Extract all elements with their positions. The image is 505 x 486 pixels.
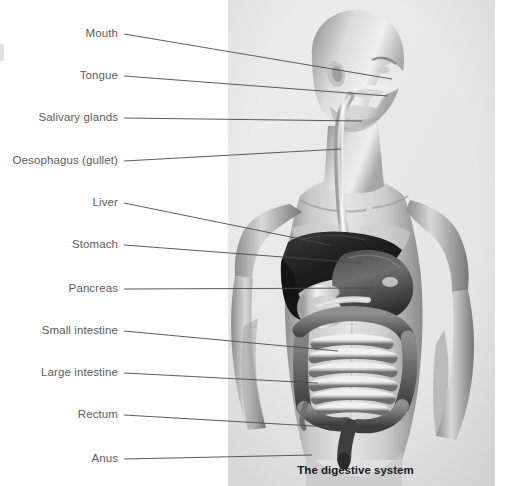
label-salivary-glands: Salivary glands: [39, 111, 118, 123]
label-pancreas: Pancreas: [69, 282, 118, 294]
label-mouth: Mouth: [86, 27, 118, 39]
label-tongue: Tongue: [80, 69, 118, 81]
stomach-highlight: [382, 277, 398, 287]
label-large-intestine: Large intestine: [41, 366, 118, 378]
label-rectum: Rectum: [78, 408, 118, 420]
neck: [324, 124, 384, 194]
label-small-intestine: Small intestine: [42, 324, 118, 336]
digestive-system-figure: MouthTongueSalivary glandsOesophagus (gu…: [0, 0, 505, 486]
descending-colon: [402, 338, 410, 406]
ascending-colon: [301, 330, 304, 408]
label-anus: Anus: [91, 452, 118, 464]
label-liver: Liver: [93, 196, 118, 208]
eye: [378, 67, 390, 74]
label-stomach: Stomach: [72, 238, 118, 250]
figure-caption: The digestive system: [258, 464, 453, 476]
label-oesophagus: Oesophagus (gullet): [13, 154, 118, 166]
